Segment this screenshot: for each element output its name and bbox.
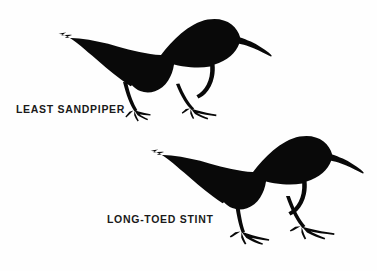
species-label-least-sandpiper: LEAST SANDPIPER [16, 104, 125, 115]
species-label-long-toed-stint: LONG-TOED STINT [107, 214, 214, 225]
silhouette-figure: LEAST SANDPIPER LONG-TOED STINT [0, 0, 377, 271]
bird-illustration-canvas [0, 0, 377, 271]
